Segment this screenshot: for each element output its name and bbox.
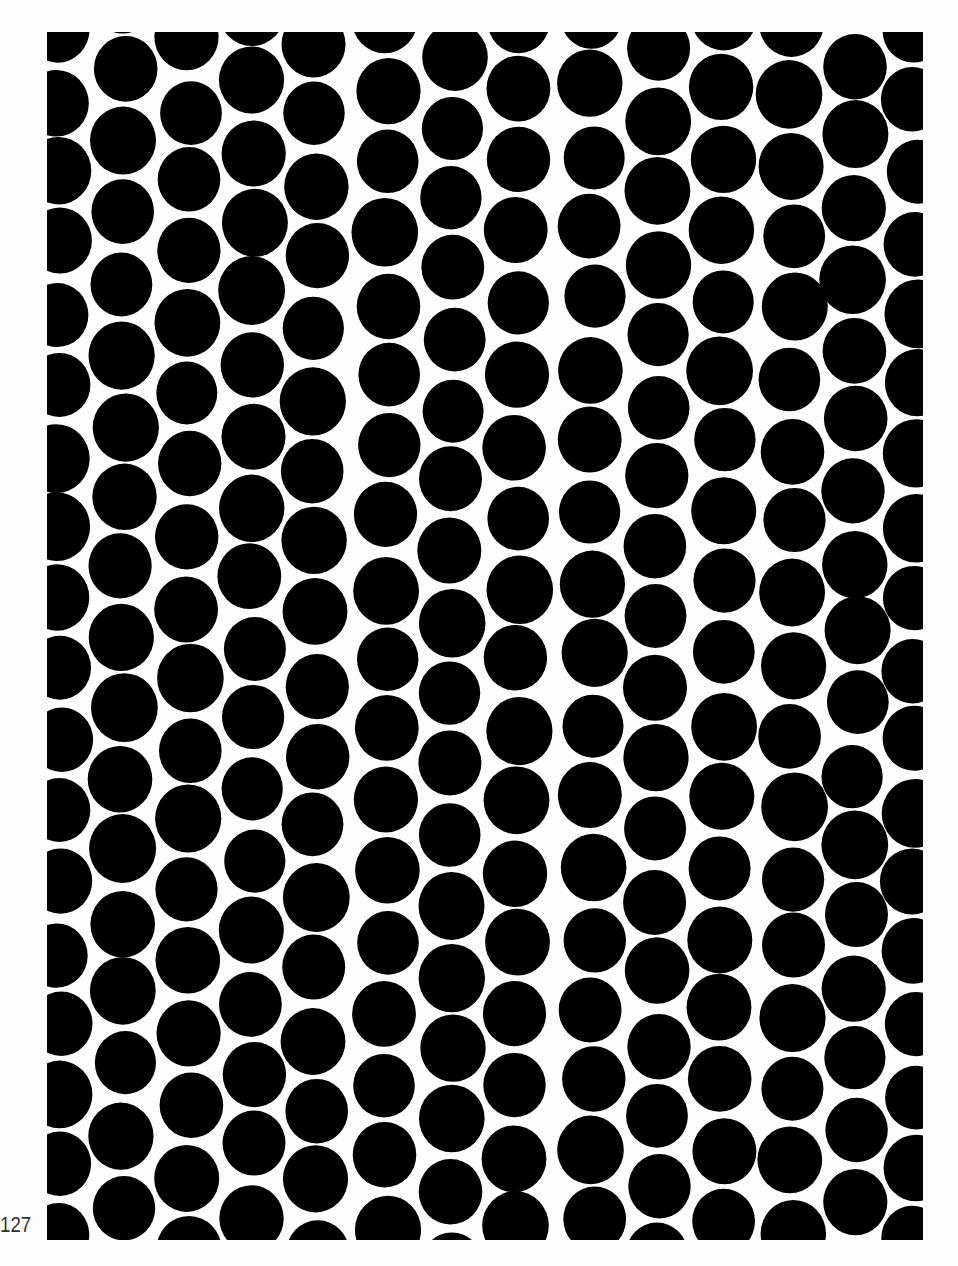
circle-dot	[353, 1054, 415, 1118]
circle-dot	[158, 431, 221, 496]
circle-dot	[156, 362, 217, 425]
circle-dot	[283, 578, 348, 645]
circle-dot	[157, 218, 220, 283]
circle-dot	[90, 891, 155, 958]
circle-dot	[47, 992, 93, 1056]
circle-dot	[824, 386, 888, 452]
circle-dot	[222, 685, 284, 749]
circle-dot	[422, 97, 483, 160]
circle-dot	[419, 803, 481, 867]
circle-dot	[357, 911, 419, 975]
circle-dot	[47, 1132, 91, 1196]
circle-dot	[91, 253, 153, 317]
circle-dot	[219, 972, 282, 1037]
circle-dot	[885, 1066, 923, 1130]
circle-dot	[219, 46, 284, 113]
circle-dot	[694, 408, 755, 471]
circle-dot	[47, 424, 90, 493]
circle-dot	[761, 1057, 823, 1121]
circle-dot	[488, 271, 549, 334]
circle-dot	[758, 704, 821, 769]
circle-dot	[91, 179, 154, 244]
circle-dot	[821, 810, 888, 879]
circle-dot	[283, 297, 344, 360]
circle-dot	[884, 212, 923, 277]
circle-dot	[761, 632, 826, 699]
circle-dot	[281, 507, 346, 574]
circle-dot	[352, 981, 416, 1047]
circle-dot	[154, 577, 218, 643]
circle-dot	[882, 779, 923, 848]
circle-dot	[687, 906, 752, 973]
circle-pattern-graphic	[47, 32, 923, 1240]
circle-dot	[419, 446, 482, 511]
circle-dot	[484, 766, 550, 834]
circle-dot	[352, 32, 418, 53]
circle-dot	[224, 830, 285, 893]
circle-dot	[623, 870, 686, 935]
circle-dot	[353, 557, 419, 625]
circle-dot	[558, 407, 622, 473]
circle-pattern-figure	[47, 32, 923, 1240]
circle-dot	[761, 419, 825, 485]
circle-dot	[823, 34, 887, 100]
circle-dot	[819, 245, 886, 314]
circle-dot	[559, 978, 622, 1043]
circle-dot	[881, 67, 923, 132]
circle-dot	[883, 419, 923, 487]
circle-dot	[419, 1085, 485, 1153]
circle-dot	[759, 32, 824, 57]
circle-dot	[623, 655, 687, 721]
circle-dot	[47, 137, 91, 205]
circle-dot	[282, 32, 346, 77]
circle-dot	[222, 757, 283, 820]
circle-dot	[286, 724, 349, 789]
circle-dot	[423, 380, 484, 443]
circle-dot	[157, 1216, 222, 1240]
circle-dot	[47, 1061, 92, 1129]
circle-dot	[419, 1159, 483, 1225]
circle-dot	[759, 133, 824, 200]
circle-dot	[47, 849, 92, 914]
circle-dot	[484, 625, 547, 690]
circle-dot	[47, 564, 89, 630]
circle-dot	[487, 556, 554, 625]
circle-dot	[420, 166, 481, 229]
circle-dot	[93, 1176, 155, 1240]
circle-dot	[692, 1189, 755, 1240]
circle-dot	[219, 897, 284, 964]
circle-dot	[881, 639, 923, 703]
circle-dot	[688, 1046, 752, 1112]
circle-dot	[353, 1122, 417, 1188]
circle-dot	[219, 475, 284, 542]
circle-dot	[757, 1126, 822, 1193]
page-number: 127	[0, 1212, 31, 1238]
circle-dot	[825, 1098, 887, 1162]
circle-dot	[756, 60, 823, 129]
circle-dot	[421, 1232, 483, 1240]
circle-dot	[218, 256, 285, 325]
circle-dot	[224, 617, 286, 681]
circle-dot	[355, 1196, 421, 1240]
circle-dot	[626, 1084, 688, 1148]
circle-dot	[823, 1169, 887, 1235]
circle-dot	[691, 32, 757, 50]
circle-dot	[223, 1111, 286, 1176]
circle-dot	[824, 1026, 885, 1089]
circle-dot	[47, 636, 91, 700]
circle-dot	[762, 848, 824, 912]
circle-dot	[47, 778, 90, 842]
circle-dot	[418, 730, 481, 795]
circle-dot	[357, 628, 418, 691]
circle-dot	[825, 596, 891, 664]
circle-dot	[562, 1046, 625, 1111]
circle-dot	[761, 772, 828, 841]
circle-dot	[693, 620, 755, 684]
circle-dot	[628, 376, 690, 440]
circle-dot	[882, 918, 923, 984]
circle-dot	[47, 32, 90, 63]
circle-dot	[357, 274, 421, 340]
circle-dot	[154, 32, 218, 70]
circle-dot	[624, 796, 686, 860]
circle-dot	[283, 82, 344, 145]
